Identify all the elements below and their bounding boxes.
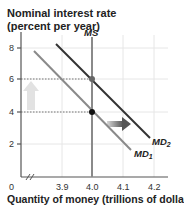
x-tick-0: 0 bbox=[9, 182, 14, 192]
md2-label: MD2 bbox=[152, 136, 171, 148]
y-tick-8: 8 bbox=[9, 43, 14, 53]
equilibrium-point-new bbox=[89, 76, 95, 82]
equilibrium-point-initial bbox=[89, 109, 95, 115]
x-tick-4-0: 4.0 bbox=[86, 182, 99, 192]
md1-label: MD1 bbox=[134, 148, 153, 160]
money-market-chart: MS MD2 MD1 8 6 4 2 0 3.9 4.0 4.1 4.2 bbox=[0, 0, 184, 209]
y-tick-4: 4 bbox=[9, 107, 14, 117]
arrow-up-icon bbox=[23, 81, 39, 110]
y-tick-6: 6 bbox=[9, 74, 14, 84]
x-tick-4-2: 4.2 bbox=[148, 182, 161, 192]
md2-curve bbox=[56, 44, 150, 138]
y-tick-2: 2 bbox=[9, 139, 14, 149]
x-axis-title: Quantity of money (trillions of dollars) bbox=[7, 193, 184, 205]
ms-label: MS bbox=[84, 27, 99, 38]
x-tick-4-1: 4.1 bbox=[117, 182, 130, 192]
md1-curve bbox=[34, 51, 131, 150]
x-tick-3-9: 3.9 bbox=[56, 182, 69, 192]
